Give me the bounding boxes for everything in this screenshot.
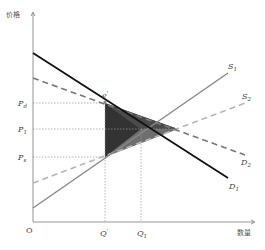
curve-label-d2: D2	[240, 158, 251, 168]
point-e-prime-marker	[103, 100, 106, 103]
curve-label-s2: S2	[242, 92, 251, 102]
price-label-pd: Pd	[17, 99, 27, 109]
origin-label: O	[26, 226, 33, 235]
curve-s1	[33, 73, 228, 208]
y-axis-label: 价格	[6, 10, 20, 19]
supply-demand-diagram: 价格 数量 O Pd P1 Ps Q' Q1 e' S1 S2 D2 D1	[0, 0, 265, 250]
curve-label-s1: S1	[228, 62, 237, 72]
shaded-region	[105, 103, 178, 157]
price-label-p1: P1	[17, 125, 27, 135]
price-label-ps: Ps	[17, 153, 26, 163]
x-axis-label: 数量	[237, 228, 251, 237]
curve-label-d1: D1	[228, 182, 239, 192]
quantity-label-q-prime: Q'	[100, 228, 108, 238]
curve-d1	[33, 53, 228, 178]
point-label-e-prime: e'	[102, 90, 108, 100]
quantity-label-q1: Q1	[137, 229, 147, 239]
